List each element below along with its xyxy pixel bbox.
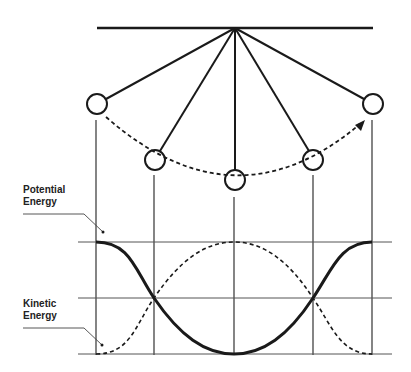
kinetic-label-line2: Energy (23, 310, 57, 322)
kinetic-energy-label: Kinetic Energy (23, 298, 57, 322)
potential-label-line1: Potential (23, 184, 65, 196)
label-leaders (23, 214, 103, 345)
swing-arc (106, 117, 360, 175)
graph-horizontals (78, 242, 392, 354)
kinetic-label-line1: Kinetic (23, 298, 57, 310)
kinetic-leader-dot (101, 344, 104, 347)
potential-leader-dot (102, 231, 105, 234)
potential-energy-label: Potential Energy (23, 184, 65, 208)
swing-arrow-icon (355, 120, 365, 131)
potential-label-line2: Energy (23, 196, 65, 208)
